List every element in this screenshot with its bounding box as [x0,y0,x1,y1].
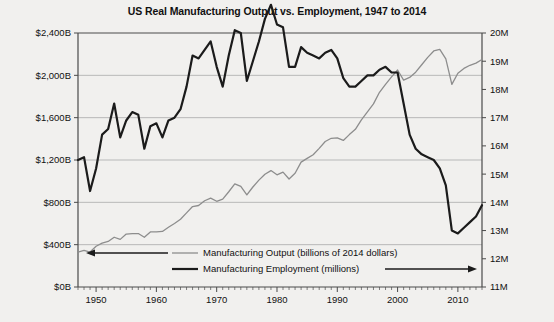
x-tick-label: 1950 [86,294,107,305]
x-tick-label: 2000 [387,294,408,305]
y-left-tick-label: $400B [44,239,71,250]
x-tick-label: 1970 [206,294,227,305]
chart-plot-area: $0B$400B$800B$1,200B$1,600B$2,000B$2,400… [0,0,554,322]
y-left-tick-label: $0B [54,281,71,292]
x-tick-label: 1960 [146,294,167,305]
y-left-tick-label: $1,600B [36,112,71,123]
y-right-tick-label: 19M [490,56,509,67]
y-right-tick-label: 18M [490,84,509,95]
y-right-tick-label: 12M [490,253,509,264]
y-left-tick-label: $2,400B [36,27,71,38]
legend-label-employment: Manufacturing Employment (millions) [203,263,359,274]
x-tick-label: 2010 [447,294,468,305]
x-tick-label: 1980 [266,294,287,305]
y-right-tick-label: 17M [490,112,509,123]
y-right-tick-label: 13M [490,225,509,236]
legend-label-output: Manufacturing Output (billions of 2014 d… [203,247,397,258]
chart-container: US Real Manufacturing Output vs. Employm… [0,0,554,322]
x-tick-label: 1990 [327,294,348,305]
y-right-tick-label: 20M [490,27,509,38]
y-left-tick-label: $1,200B [36,154,71,165]
y-right-tick-label: 11M [490,281,508,292]
y-right-tick-label: 15M [490,169,509,180]
y-left-tick-label: $2,000B [36,70,71,81]
y-right-tick-label: 14M [490,197,509,208]
y-left-tick-label: $800B [44,197,71,208]
y-right-tick-label: 16M [490,140,509,151]
